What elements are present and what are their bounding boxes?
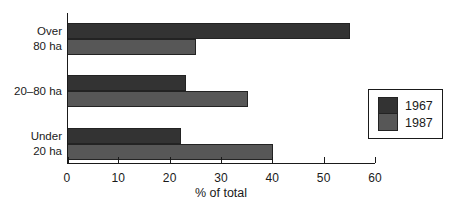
- x-tick-0: [68, 157, 69, 163]
- category-label-under-20-ha: Under20 ha: [0, 128, 62, 160]
- x-tick-label-30: 30: [214, 171, 228, 185]
- farm-size-bar-chart: Over80 ha20–80 haUnder20 ha 010203040506…: [0, 0, 449, 209]
- x-tick-label-50: 50: [317, 171, 331, 185]
- bar-1967-20-80-ha: [68, 75, 186, 91]
- x-tick-30: [221, 157, 222, 163]
- legend-swatch-1987: [378, 114, 398, 131]
- x-tick-label-0: 0: [64, 171, 71, 185]
- x-tick-40: [272, 157, 273, 163]
- bar-1987-20-80-ha: [68, 91, 248, 107]
- legend-label-1967: 1967: [405, 99, 433, 113]
- legend: 19671987: [368, 89, 443, 139]
- x-tick-10: [118, 157, 119, 163]
- x-axis-title: % of total: [67, 186, 375, 200]
- x-tick-label-40: 40: [265, 171, 279, 185]
- x-tick-label-10: 10: [111, 171, 125, 185]
- x-tick-label-20: 20: [163, 171, 177, 185]
- legend-swatch-1967: [378, 97, 398, 114]
- x-tick-60: [375, 157, 376, 163]
- bar-1967-under-20-ha: [68, 128, 181, 144]
- legend-label-1987: 1987: [405, 116, 433, 130]
- plot-area: [67, 13, 375, 164]
- legend-rows: 19671987: [378, 97, 433, 131]
- bar-1967-over-80-ha: [68, 23, 350, 39]
- x-tick-20: [170, 157, 171, 163]
- x-tick-label-60: 60: [368, 171, 382, 185]
- category-label-20-80-ha: 20–80 ha: [0, 75, 62, 107]
- category-label-over-80-ha: Over80 ha: [0, 23, 62, 55]
- legend-entry-1987: 1987: [378, 114, 433, 131]
- x-tick-50: [324, 157, 325, 163]
- legend-entry-1967: 1967: [378, 97, 433, 114]
- bar-1987-over-80-ha: [68, 39, 196, 55]
